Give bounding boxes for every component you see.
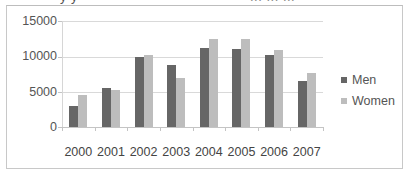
- bar-men-2000: [69, 106, 78, 127]
- legend-label-women: Women: [352, 94, 395, 108]
- cropped-caption-left: y y: [60, 0, 78, 4]
- x-tick: [225, 127, 226, 131]
- legend-label-men: Men: [352, 73, 376, 87]
- x-tick: [323, 127, 324, 131]
- plot-area: [62, 21, 323, 128]
- bar-women-2004: [209, 39, 218, 127]
- bar-men-2002: [135, 57, 144, 127]
- y-tick-label-10000: 10000: [0, 49, 57, 63]
- bar-men-2001: [102, 88, 111, 127]
- bar-women-2006: [274, 50, 283, 127]
- bar-women-2001: [111, 90, 120, 128]
- x-tick: [62, 127, 63, 131]
- y-tick-label-5000: 5000: [0, 85, 57, 99]
- gridline-15000: [62, 21, 323, 22]
- x-tick: [127, 127, 128, 131]
- bar-women-2003: [176, 78, 185, 127]
- y-tick: [58, 57, 62, 58]
- legend-item-men: Men: [341, 73, 376, 87]
- gridline-10000: [62, 57, 323, 58]
- x-tick-label-2002: 2002: [127, 145, 160, 159]
- y-tick-label-0: 0: [0, 120, 57, 134]
- y-tick: [58, 21, 62, 22]
- x-tick: [258, 127, 259, 131]
- y-tick: [58, 92, 62, 93]
- x-tick-label-2005: 2005: [225, 145, 258, 159]
- bar-men-2004: [200, 48, 209, 127]
- bar-women-2000: [78, 95, 87, 127]
- legend-swatch-women: [341, 98, 347, 104]
- y-tick-label-15000: 15000: [0, 14, 57, 28]
- x-tick-label-2000: 2000: [62, 145, 95, 159]
- bar-men-2007: [298, 81, 307, 127]
- x-tick-label-2004: 2004: [192, 145, 225, 159]
- bar-women-2007: [307, 73, 316, 127]
- x-tick-label-2003: 2003: [160, 145, 193, 159]
- legend-item-women: Women: [341, 94, 395, 108]
- bar-women-2005: [241, 39, 250, 127]
- bar-men-2006: [265, 55, 274, 127]
- cropped-caption-right: ... ... ...: [250, 0, 295, 4]
- x-tick-label-2001: 2001: [94, 145, 127, 159]
- x-tick: [95, 127, 96, 131]
- legend-swatch-men: [341, 77, 347, 83]
- bar-men-2005: [232, 49, 241, 127]
- x-tick: [193, 127, 194, 131]
- x-tick-label-2006: 2006: [258, 145, 291, 159]
- x-tick-label-2007: 2007: [290, 145, 323, 159]
- x-tick: [160, 127, 161, 131]
- x-tick: [290, 127, 291, 131]
- y-axis-line: [62, 21, 63, 128]
- bar-men-2003: [167, 65, 176, 127]
- bar-women-2002: [144, 55, 153, 127]
